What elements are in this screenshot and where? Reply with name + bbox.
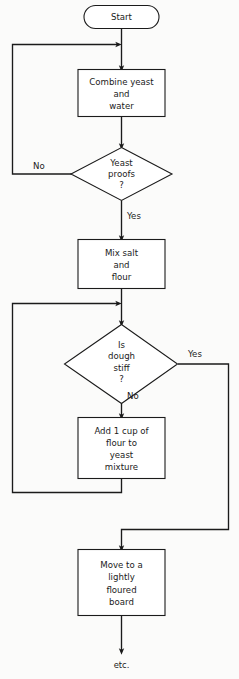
move-board-label-line-3: floured <box>106 585 136 595</box>
move-board-label-line-2: lightly <box>108 572 135 582</box>
add-flour-label-line-2: flour to <box>106 438 137 448</box>
mix-label-line-1: Mix salt <box>105 248 139 258</box>
node-combine-yeast-water[interactable]: Combine yeast and water <box>78 70 165 117</box>
flowchart-canvas: Start Combine yeast and water Yeast proo… <box>0 0 239 679</box>
node-dough-stiff-decision[interactable]: Is dough stiff ? <box>65 325 178 404</box>
combine-label-line-1: Combine yeast <box>89 77 154 87</box>
add-flour-label-line-3: yeast <box>110 450 134 460</box>
add-flour-label-line-4: mixture <box>105 462 138 472</box>
combine-label-line-2: and <box>113 89 129 99</box>
node-move-to-board[interactable]: Move to a lightly floured board <box>78 550 165 616</box>
node-mix-salt-flour[interactable]: Mix salt and flour <box>78 240 165 289</box>
move-board-label-line-4: board <box>109 597 134 607</box>
yeast-proofs-label-line-3: ? <box>119 180 124 190</box>
edge-label-yeast-proofs-no: No <box>33 161 45 171</box>
edge-label-dough-stiff-yes: Yes <box>187 349 202 359</box>
dough-stiff-label-line-4: ? <box>119 374 124 384</box>
start-label: Start <box>111 12 133 22</box>
flowchart-svg: Start Combine yeast and water Yeast proo… <box>0 0 239 679</box>
move-board-label-line-1: Move to a <box>100 560 142 570</box>
edge-label-yeast-proofs-yes: Yes <box>126 211 141 221</box>
node-add-flour[interactable]: Add 1 cup of flour to yeast mixture <box>78 418 165 479</box>
node-yeast-proofs-decision[interactable]: Yeast proofs ? <box>71 148 172 201</box>
etc-note: etc. <box>114 660 130 670</box>
dough-stiff-label-line-3: stiff <box>113 363 130 373</box>
edge-label-dough-stiff-no: No <box>127 391 139 401</box>
combine-label-line-3: water <box>109 101 134 111</box>
yeast-proofs-label-line-2: proofs <box>108 169 135 179</box>
dough-stiff-label-line-1: Is <box>118 340 126 350</box>
node-start[interactable]: Start <box>84 6 159 29</box>
yeast-proofs-label-line-1: Yeast <box>109 158 133 168</box>
mix-label-line-3: flour <box>112 272 132 282</box>
mix-label-line-2: and <box>113 260 129 270</box>
dough-stiff-label-line-2: dough <box>108 351 135 361</box>
add-flour-label-line-1: Add 1 cup of <box>94 426 149 436</box>
